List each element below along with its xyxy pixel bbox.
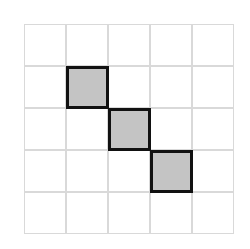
grid-cell [192,66,234,108]
grid-cell [66,108,108,150]
grid-diagram [24,24,234,234]
grid-cell [108,192,150,234]
grid-cell [150,66,192,108]
grid-cell [192,192,234,234]
grid-cell [150,24,192,66]
grid-cell [192,24,234,66]
grid-cell [108,66,150,108]
grid-cell [150,108,192,150]
filled-grid-cell [66,66,109,109]
grid-cell [192,150,234,192]
grid-cell [24,192,66,234]
filled-grid-cell [150,150,193,193]
grid-cell [66,192,108,234]
grid-cell [108,150,150,192]
grid-cell [108,24,150,66]
grid-cell [66,24,108,66]
grid-cell [66,150,108,192]
filled-grid-cell [108,108,151,151]
grid-cell [24,108,66,150]
grid-cell [192,108,234,150]
grid-cell [24,24,66,66]
grid-cell [150,192,192,234]
grid-cell [24,150,66,192]
grid-cell [24,66,66,108]
